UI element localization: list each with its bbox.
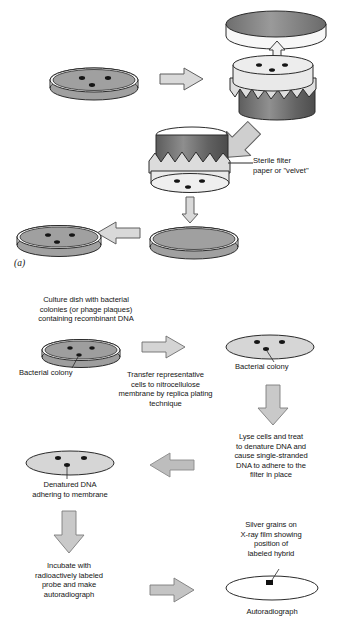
colony-dot — [263, 347, 269, 351]
nitrocellulose-membrane — [222, 330, 318, 364]
panel-a-label: (a) — [14, 258, 25, 268]
caption-denatured: Denatured DNA adhering to membrane — [6, 480, 134, 499]
silver-grain-spot — [266, 580, 273, 585]
colony-dot — [54, 240, 60, 244]
master-petri-dish — [46, 57, 142, 103]
caption-transfer: Transfer representative cells to nitroce… — [98, 370, 233, 408]
panel-b: Culture dish with bacterial colonies (or… — [0, 280, 341, 638]
arrow-transfer-right — [140, 333, 188, 361]
colony-dot — [45, 233, 51, 237]
culture-petri-dish — [38, 330, 124, 370]
replica-petri-dish — [13, 215, 105, 259]
velvet-block-upright — [222, 52, 334, 117]
colony-dot — [81, 456, 87, 460]
leader-line-sterile-filter — [228, 159, 254, 167]
colony-dot — [67, 346, 73, 349]
fresh-petri-dish — [146, 218, 242, 262]
colony-dot — [89, 83, 95, 87]
colony-dot — [69, 233, 75, 237]
arrow-down-lyse — [256, 384, 290, 426]
label-bacterial-colony-left: Bacterial colony — [19, 368, 73, 378]
label-bacterial-colony-right: Bacterial colony — [235, 362, 289, 372]
colony-dot — [76, 353, 82, 356]
caption-silver-grains: Silver grains on X-ray film showing posi… — [206, 520, 336, 558]
colony-dot — [269, 68, 275, 72]
arrow-right-to-block — [158, 65, 206, 93]
denatured-membrane — [22, 446, 118, 482]
arrow-down-incubate — [52, 510, 86, 554]
arrow-left-denatured — [148, 450, 196, 480]
caption-autoradiograph: Autoradiograph — [215, 607, 329, 617]
colony-dot — [79, 76, 85, 80]
arrow-right-autoradiograph — [148, 575, 196, 605]
colony-dot — [174, 179, 180, 183]
colony-dot — [256, 63, 262, 67]
colony-dot — [199, 179, 205, 183]
colony-dot — [279, 340, 285, 344]
autoradiograph-film — [222, 568, 322, 604]
figure-replica-plating-colony-hybridization: Sterile filter paper or "velvet" (a) — [0, 0, 341, 638]
caption-lyse: Lyse cells and treat to denature DNA and… — [205, 432, 337, 480]
colony-dot — [55, 456, 61, 460]
colony-dot — [185, 185, 191, 189]
colony-dot — [282, 63, 288, 67]
colony-dot — [89, 346, 95, 349]
caption-incubate: Incubate with radioactively labeled prob… — [5, 561, 133, 599]
label-sterile-filter: Sterile filter paper or "velvet" — [253, 156, 309, 175]
colony-dot — [105, 76, 111, 80]
colony-dot — [64, 463, 70, 467]
colony-dot — [254, 340, 260, 344]
caption-culture-dish: Culture dish with bacterial colonies (or… — [6, 295, 166, 324]
panel-a: Sterile filter paper or "velvet" (a) — [0, 0, 341, 280]
